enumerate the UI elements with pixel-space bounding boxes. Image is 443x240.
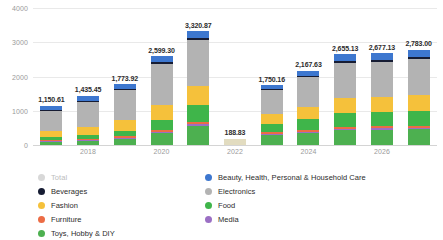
bar-2022[interactable]: 188.83: [224, 139, 246, 145]
bar-2018[interactable]: 1,435.45: [77, 96, 99, 145]
legend-item-label: Beverages: [51, 187, 87, 196]
x-axis-tick-label: 2018: [80, 148, 96, 155]
bar-value-label: 3,320.87: [185, 22, 211, 29]
legend-swatch-icon: [205, 216, 212, 223]
legend-swatch-icon: [38, 174, 45, 181]
legend-swatch-icon: [38, 216, 45, 223]
bar-value-label: 2,677.13: [369, 44, 395, 51]
bar-2017[interactable]: 1,150.61: [40, 106, 62, 145]
legend-item-label: Total: [51, 173, 67, 182]
bar-segment-toys-hobby-diy: [77, 141, 99, 145]
bar-segment-electronics: [151, 64, 173, 104]
legend-item-label: Furniture: [51, 215, 81, 224]
legend-item[interactable]: Electronics: [205, 184, 366, 198]
bar-value-label: 2,655.13: [332, 45, 358, 52]
bar-segment-fashion: [334, 98, 356, 113]
legend-swatch-icon: [38, 202, 45, 209]
bar-value-label: 2,167.63: [295, 61, 321, 68]
x-axis-tick-label: 2022: [227, 148, 243, 155]
legend-item[interactable]: Toys, Hobby & DIY: [38, 226, 115, 240]
bar-segment-toys-hobby-diy: [297, 133, 319, 145]
bar-segment-food: [297, 119, 319, 130]
bar-2024[interactable]: 2,167.63: [297, 71, 319, 145]
bar-segment-fashion: [297, 107, 319, 119]
stacked-bar-chart: 010002000300040001,150.611,435.451,773.9…: [0, 0, 443, 240]
bar-segment-electronics: [334, 63, 356, 98]
bar-segment-food: [151, 120, 173, 130]
legend-swatch-icon: [205, 174, 212, 181]
bar-segment-electronics: [40, 111, 62, 131]
bar-segment-food: [371, 112, 393, 126]
y-axis-tick-label: 1000: [12, 107, 28, 114]
legend-item-label: Beauty, Health, Personal & Household Car…: [218, 173, 366, 182]
bar-value-label: 2,599.30: [148, 47, 174, 54]
bar-segment-fashion: [114, 120, 136, 130]
bar-segment-electronics: [114, 90, 136, 120]
legend-column-right: Beauty, Health, Personal & Household Car…: [205, 170, 366, 226]
bar-value-label: 1,435.45: [75, 86, 101, 93]
legend-item-label: Media: [218, 215, 239, 224]
y-axis-tick-label: 2000: [12, 73, 28, 80]
bar-segment-fashion: [261, 114, 283, 124]
chart-legend: TotalBeveragesFashionFurnitureToys, Hobb…: [0, 170, 443, 236]
bar-value-label: 188.83: [225, 129, 246, 136]
x-axis-tick-label: 2020: [154, 148, 170, 155]
legend-item-label: Fashion: [51, 201, 78, 210]
bar-segment-fashion: [408, 95, 430, 111]
y-axis-tick-label: 3000: [12, 39, 28, 46]
x-axis-tick-label: 2026: [374, 148, 390, 155]
bar-2027[interactable]: 2,783.00: [408, 50, 430, 145]
legend-swatch-icon: [38, 230, 45, 237]
legend-item-label: Electronics: [218, 187, 255, 196]
bar-2025[interactable]: 2,655.13: [334, 54, 356, 145]
bar-segment-fashion: [151, 105, 173, 120]
legend-item[interactable]: Food: [205, 198, 366, 212]
legend-item-label: Food: [218, 201, 235, 210]
legend-item[interactable]: Fashion: [38, 198, 115, 212]
bar-2023[interactable]: 1,750.16: [261, 85, 283, 145]
bar-value-label: 2,783.00: [405, 40, 431, 47]
bar-segment-toys-hobby-diy: [371, 130, 393, 145]
bar-segment-fashion: [371, 97, 393, 113]
bar-segment-toys-hobby-diy: [334, 130, 356, 145]
x-axis-tick-label: 2024: [300, 148, 316, 155]
bar-2019[interactable]: 1,773.92: [114, 84, 136, 145]
bar-segment-food: [334, 113, 356, 127]
bar-segment-toys-hobby-diy: [187, 126, 209, 145]
bar-value-label: 1,773.92: [112, 75, 138, 82]
bar-segment-fashion: [187, 86, 209, 105]
legend-swatch-icon: [205, 202, 212, 209]
legend-item-label: Toys, Hobby & DIY: [51, 229, 115, 238]
bar-2021[interactable]: 3,320.87: [187, 31, 209, 145]
legend-swatch-icon: [38, 188, 45, 195]
legend-item[interactable]: Beverages: [38, 184, 115, 198]
gridline: [33, 8, 437, 9]
bar-segment-electronics: [261, 90, 283, 114]
bar-segment-electronics: [371, 62, 393, 97]
y-axis-tick-label: 0: [24, 142, 28, 149]
bar-segment-electronics: [408, 59, 430, 95]
bar-segment-food: [408, 111, 430, 126]
bar-value-label: 1,150.61: [38, 96, 64, 103]
legend-item[interactable]: Media: [205, 212, 366, 226]
bar-segment-beauty-health-personal-household-care: [408, 50, 430, 57]
bar-segment-toys-hobby-diy: [151, 133, 173, 145]
bar-segment-electronics: [297, 77, 319, 106]
legend-swatch-icon: [205, 188, 212, 195]
legend-item[interactable]: Furniture: [38, 212, 115, 226]
bar-segment-toys-hobby-diy: [40, 142, 62, 145]
bar-2020[interactable]: 2,599.30: [151, 56, 173, 145]
bar-value-label: 1,750.16: [258, 76, 284, 83]
bar-segment-electronics: [77, 102, 99, 127]
bar-segment-total: [224, 139, 246, 145]
bar-segment-toys-hobby-diy: [408, 129, 430, 145]
x-axis: 20182020202220242026: [33, 148, 437, 160]
legend-item[interactable]: Total: [38, 170, 115, 184]
bar-2026[interactable]: 2,677.13: [371, 53, 393, 145]
plot-area: 010002000300040001,150.611,435.451,773.9…: [33, 8, 437, 145]
legend-column-left: TotalBeveragesFashionFurnitureToys, Hobb…: [38, 170, 115, 240]
bar-segment-food: [187, 105, 209, 122]
y-axis-tick-label: 4000: [12, 5, 28, 12]
bar-segment-beauty-health-personal-household-care: [334, 54, 356, 61]
legend-item[interactable]: Beauty, Health, Personal & Household Car…: [205, 170, 366, 184]
